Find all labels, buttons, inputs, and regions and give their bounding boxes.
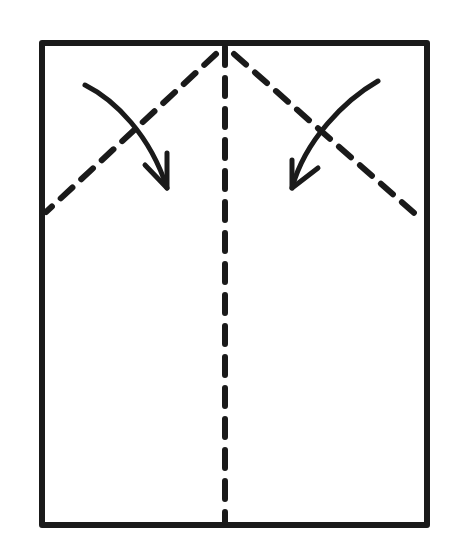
origami-diagram <box>0 0 450 554</box>
left-diagonal-fold-line <box>46 54 216 212</box>
paper-outline <box>42 43 427 525</box>
right-diagonal-fold-line <box>234 54 422 220</box>
